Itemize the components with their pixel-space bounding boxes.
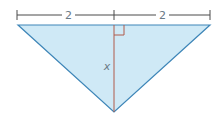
dimension-line [17, 10, 210, 20]
altitude-label: x [103, 60, 111, 73]
left-dimension-label: 2 [65, 9, 72, 22]
triangle-diagram: 2 2 x [0, 0, 218, 114]
right-dimension-label: 2 [159, 9, 166, 22]
